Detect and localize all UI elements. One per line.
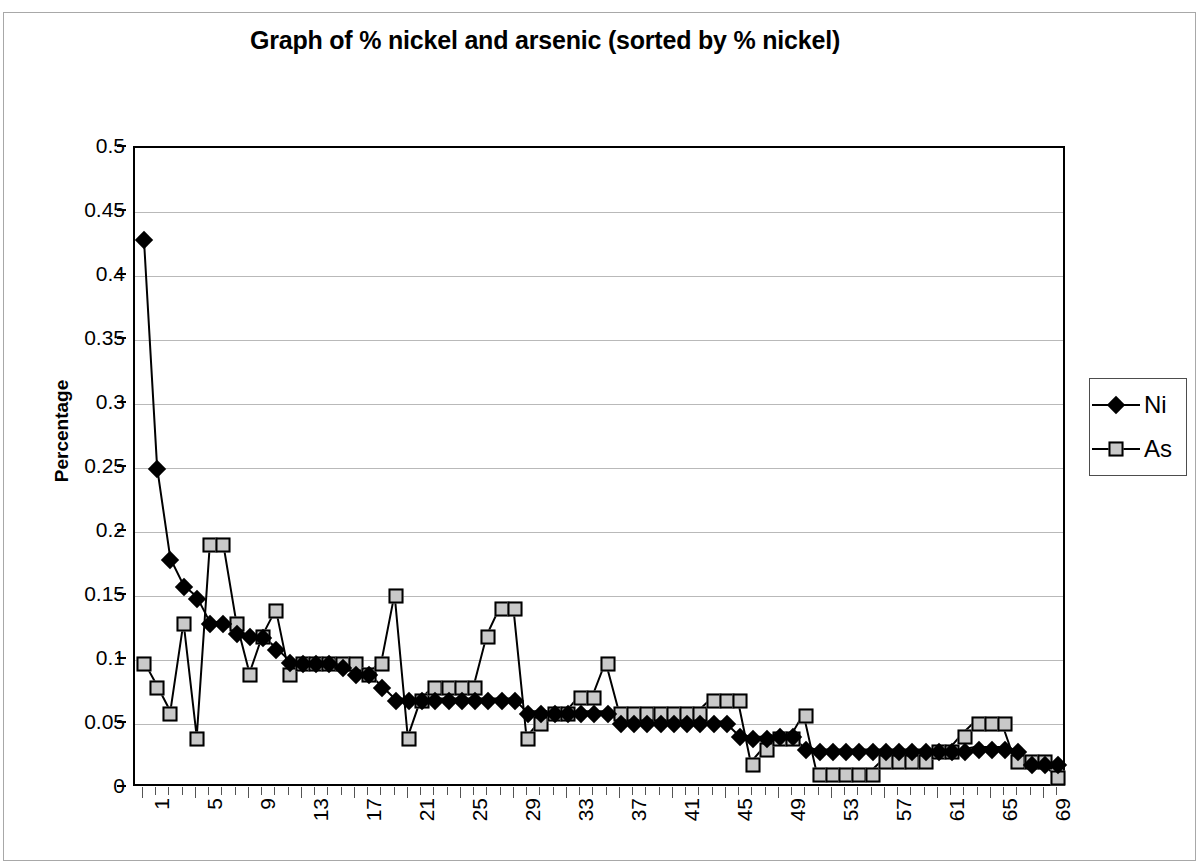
x-axis-tick-mark bbox=[341, 787, 342, 795]
x-axis-tick-mark bbox=[1030, 787, 1031, 795]
x-axis-tick-mark bbox=[354, 787, 355, 798]
x-axis-tick-label: 5 bbox=[203, 798, 227, 810]
x-axis-tick-mark bbox=[831, 787, 832, 798]
square-marker-icon bbox=[958, 729, 973, 744]
x-axis-tick-label: 61 bbox=[945, 798, 969, 821]
y-axis-tick-label: 0.2 bbox=[55, 518, 125, 542]
x-axis-tick-mark bbox=[884, 787, 885, 798]
x-axis-tick-mark bbox=[473, 787, 474, 795]
x-axis-tick-mark bbox=[778, 787, 779, 798]
x-axis-tick-mark bbox=[433, 787, 434, 795]
x-axis-tick-mark bbox=[950, 787, 951, 795]
x-axis-tick-mark bbox=[1056, 787, 1057, 795]
x-axis-tick-mark bbox=[566, 787, 567, 798]
series-line-as bbox=[144, 543, 1054, 775]
x-axis-tick-mark bbox=[606, 787, 607, 795]
x-axis-tick-mark bbox=[155, 787, 156, 795]
x-axis-tick-mark bbox=[897, 787, 898, 795]
x-axis-tick-label: 29 bbox=[521, 798, 545, 821]
x-axis-tick-label: 13 bbox=[309, 798, 333, 821]
square-marker-icon bbox=[269, 604, 284, 619]
x-axis-tick-mark bbox=[526, 787, 527, 795]
chart-page: Graph of % nickel and arsenic (sorted by… bbox=[0, 0, 1202, 865]
square-marker-icon bbox=[176, 617, 191, 632]
x-axis-tick-mark bbox=[659, 787, 660, 795]
x-axis-tick-mark bbox=[420, 787, 421, 795]
x-axis-tick-mark bbox=[261, 787, 262, 795]
x-axis-tick-mark bbox=[301, 787, 302, 798]
x-axis-tick-labels: 159131721252933374145495357616569 bbox=[133, 798, 1065, 862]
x-axis-tick-mark bbox=[142, 787, 143, 798]
plot-area bbox=[133, 146, 1065, 786]
x-axis-tick-label: 33 bbox=[574, 798, 598, 821]
x-axis-tick-mark bbox=[486, 787, 487, 795]
x-axis-tick-label: 69 bbox=[1051, 798, 1075, 821]
x-axis-tick-mark bbox=[632, 787, 633, 795]
y-axis-tick-mark bbox=[117, 721, 126, 723]
x-axis-tick-label: 65 bbox=[998, 798, 1022, 821]
x-axis-tick-mark bbox=[380, 787, 381, 795]
y-axis-tick-label: 0.45 bbox=[55, 198, 125, 222]
square-marker-icon bbox=[216, 537, 231, 552]
y-axis-tick-mark bbox=[117, 785, 126, 787]
y-axis-tick-mark bbox=[117, 593, 126, 595]
square-marker-icon bbox=[242, 668, 257, 683]
square-marker-icon bbox=[600, 656, 615, 671]
diamond-marker-icon bbox=[1107, 396, 1125, 414]
x-axis-tick-mark bbox=[592, 787, 593, 795]
square-marker-icon bbox=[733, 693, 748, 708]
y-axis-tick-label: 0.4 bbox=[55, 262, 125, 286]
y-axis-tick-mark bbox=[117, 401, 126, 403]
legend-item-as: As bbox=[1090, 429, 1186, 469]
square-marker-icon bbox=[163, 706, 178, 721]
series-line-ni bbox=[144, 240, 1054, 763]
y-axis-tick-mark bbox=[117, 529, 126, 531]
x-axis-tick-mark bbox=[447, 787, 448, 795]
x-axis-tick-mark bbox=[235, 787, 236, 795]
x-axis-tick-mark bbox=[751, 787, 752, 795]
y-axis-tick-mark bbox=[117, 465, 126, 467]
x-axis-tick-mark bbox=[937, 787, 938, 798]
square-marker-icon bbox=[521, 732, 536, 747]
x-axis-tick-mark bbox=[288, 787, 289, 795]
x-axis-tick-mark bbox=[500, 787, 501, 795]
x-axis-tick-mark bbox=[804, 787, 805, 795]
y-axis-tick-label: 0.1 bbox=[55, 646, 125, 670]
series-lines bbox=[135, 148, 1063, 785]
x-axis-tick-mark bbox=[168, 787, 169, 795]
x-axis-tick-mark bbox=[1003, 787, 1004, 795]
chart-legend: Ni As bbox=[1089, 378, 1187, 476]
x-axis-tick-mark bbox=[619, 787, 620, 798]
x-axis-tick-mark bbox=[645, 787, 646, 795]
y-axis-tick-label: 0.35 bbox=[55, 326, 125, 350]
x-axis-tick-mark bbox=[579, 787, 580, 795]
y-axis-tick-mark bbox=[117, 657, 126, 659]
square-marker-icon bbox=[865, 768, 880, 783]
y-axis-tick-labels: 0.50.450.40.350.30.250.20.150.10.050 bbox=[47, 146, 125, 786]
x-axis-tick-label: 21 bbox=[415, 798, 439, 821]
x-axis-tick-label: 1 bbox=[150, 798, 174, 810]
y-axis-tick-mark bbox=[117, 273, 126, 275]
square-marker-icon bbox=[587, 691, 602, 706]
x-axis-tick-mark bbox=[1043, 787, 1044, 798]
x-axis-tick-mark bbox=[367, 787, 368, 795]
x-axis-tick-mark bbox=[712, 787, 713, 795]
x-axis-tick-mark bbox=[553, 787, 554, 795]
square-marker-icon bbox=[481, 629, 496, 644]
x-axis-tick-mark bbox=[327, 787, 328, 795]
x-axis-tick-mark bbox=[248, 787, 249, 798]
legend-label-ni: Ni bbox=[1144, 393, 1167, 417]
x-axis-tick-label: 25 bbox=[468, 798, 492, 821]
square-marker-icon bbox=[189, 732, 204, 747]
x-axis-tick-mark bbox=[924, 787, 925, 795]
x-axis-tick-label: 53 bbox=[839, 798, 863, 821]
x-axis-tick-mark bbox=[685, 787, 686, 795]
x-axis-tick-mark bbox=[208, 787, 209, 795]
x-axis-tick-label: 17 bbox=[362, 798, 386, 821]
x-axis-tick-mark bbox=[844, 787, 845, 795]
x-axis-tick-mark bbox=[738, 787, 739, 795]
chart-title: Graph of % nickel and arsenic (sorted by… bbox=[0, 26, 1090, 55]
x-axis-tick-mark bbox=[765, 787, 766, 795]
x-axis-tick-label: 49 bbox=[786, 798, 810, 821]
x-axis-tick-label: 45 bbox=[733, 798, 757, 821]
